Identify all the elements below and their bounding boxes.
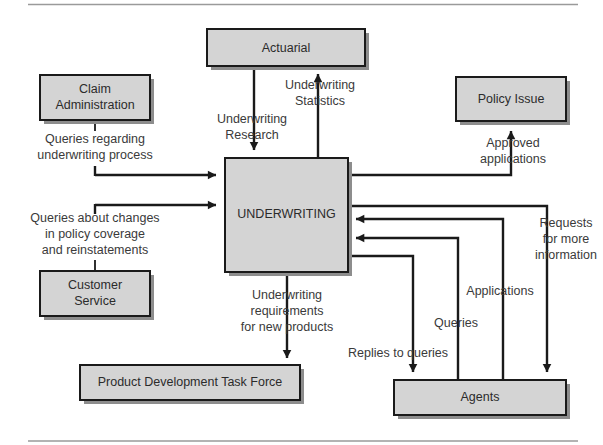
node-customer-service-label-line1: Customer xyxy=(68,278,122,292)
svg-text:Queries: Queries xyxy=(434,316,478,330)
node-customer-service[interactable]: Customer Service xyxy=(40,271,154,320)
node-policy-issue-label: Policy Issue xyxy=(478,92,545,106)
label-queries-about-changes: Queries about changes in policy coverage… xyxy=(30,211,159,257)
node-actuarial-label: Actuarial xyxy=(262,41,311,55)
label-underwriting-requirements: Underwriting requirements for new produc… xyxy=(241,288,333,334)
node-claim-administration-label-line1: Claim xyxy=(79,82,111,96)
svg-text:Queries regarding: Queries regarding xyxy=(45,132,145,146)
node-agents[interactable]: Agents xyxy=(394,380,570,419)
underwriting-flow-diagram: Actuarial Claim Administration Policy Is… xyxy=(0,0,603,445)
label-queries-regarding-underwriting-process: Queries regarding underwriting process xyxy=(37,132,152,162)
node-underwriting-label: UNDERWRITING xyxy=(237,207,335,221)
node-customer-service-label-line2: Service xyxy=(74,294,116,308)
label-underwriting-statistics: Underwriting Statistics xyxy=(285,78,355,108)
label-applications: Applications xyxy=(466,284,533,298)
svg-text:information: information xyxy=(535,248,597,262)
svg-text:underwriting process: underwriting process xyxy=(37,148,152,162)
svg-text:in policy coverage: in policy coverage xyxy=(45,227,145,241)
node-claim-administration-label-line2: Administration xyxy=(55,98,134,112)
svg-text:Research: Research xyxy=(225,128,279,142)
svg-text:Underwriting: Underwriting xyxy=(285,78,355,92)
label-approved-applications: Approved applications xyxy=(480,136,546,166)
svg-text:applications: applications xyxy=(480,152,546,166)
node-product-development-task-force[interactable]: Product Development Task Force xyxy=(80,365,304,404)
node-claim-administration[interactable]: Claim Administration xyxy=(40,75,154,124)
node-underwriting[interactable]: UNDERWRITING xyxy=(225,158,352,276)
svg-text:Queries about changes: Queries about changes xyxy=(30,211,159,225)
node-agents-label: Agents xyxy=(461,390,500,404)
svg-text:requirements: requirements xyxy=(251,304,324,318)
diagram-page: Actuarial Claim Administration Policy Is… xyxy=(0,0,603,445)
svg-text:Statistics: Statistics xyxy=(295,94,345,108)
label-underwriting-research: Underwriting Research xyxy=(217,112,287,142)
svg-text:Replies to queries: Replies to queries xyxy=(348,346,448,360)
label-requests-for-more-information: Requests for more information xyxy=(535,216,597,262)
svg-text:Requests: Requests xyxy=(540,216,593,230)
svg-text:Underwriting: Underwriting xyxy=(252,288,322,302)
svg-text:for new products: for new products xyxy=(241,320,333,334)
node-actuarial[interactable]: Actuarial xyxy=(207,29,369,70)
svg-text:and reinstatements: and reinstatements xyxy=(42,243,148,257)
svg-text:Approved: Approved xyxy=(486,136,540,150)
svg-text:for more: for more xyxy=(543,232,590,246)
svg-text:Applications: Applications xyxy=(466,284,533,298)
node-policy-issue[interactable]: Policy Issue xyxy=(456,77,570,125)
label-queries: Queries xyxy=(434,316,478,330)
node-product-development-task-force-label: Product Development Task Force xyxy=(98,375,283,389)
label-replies-to-queries: Replies to queries xyxy=(348,346,448,360)
svg-text:Underwriting: Underwriting xyxy=(217,112,287,126)
